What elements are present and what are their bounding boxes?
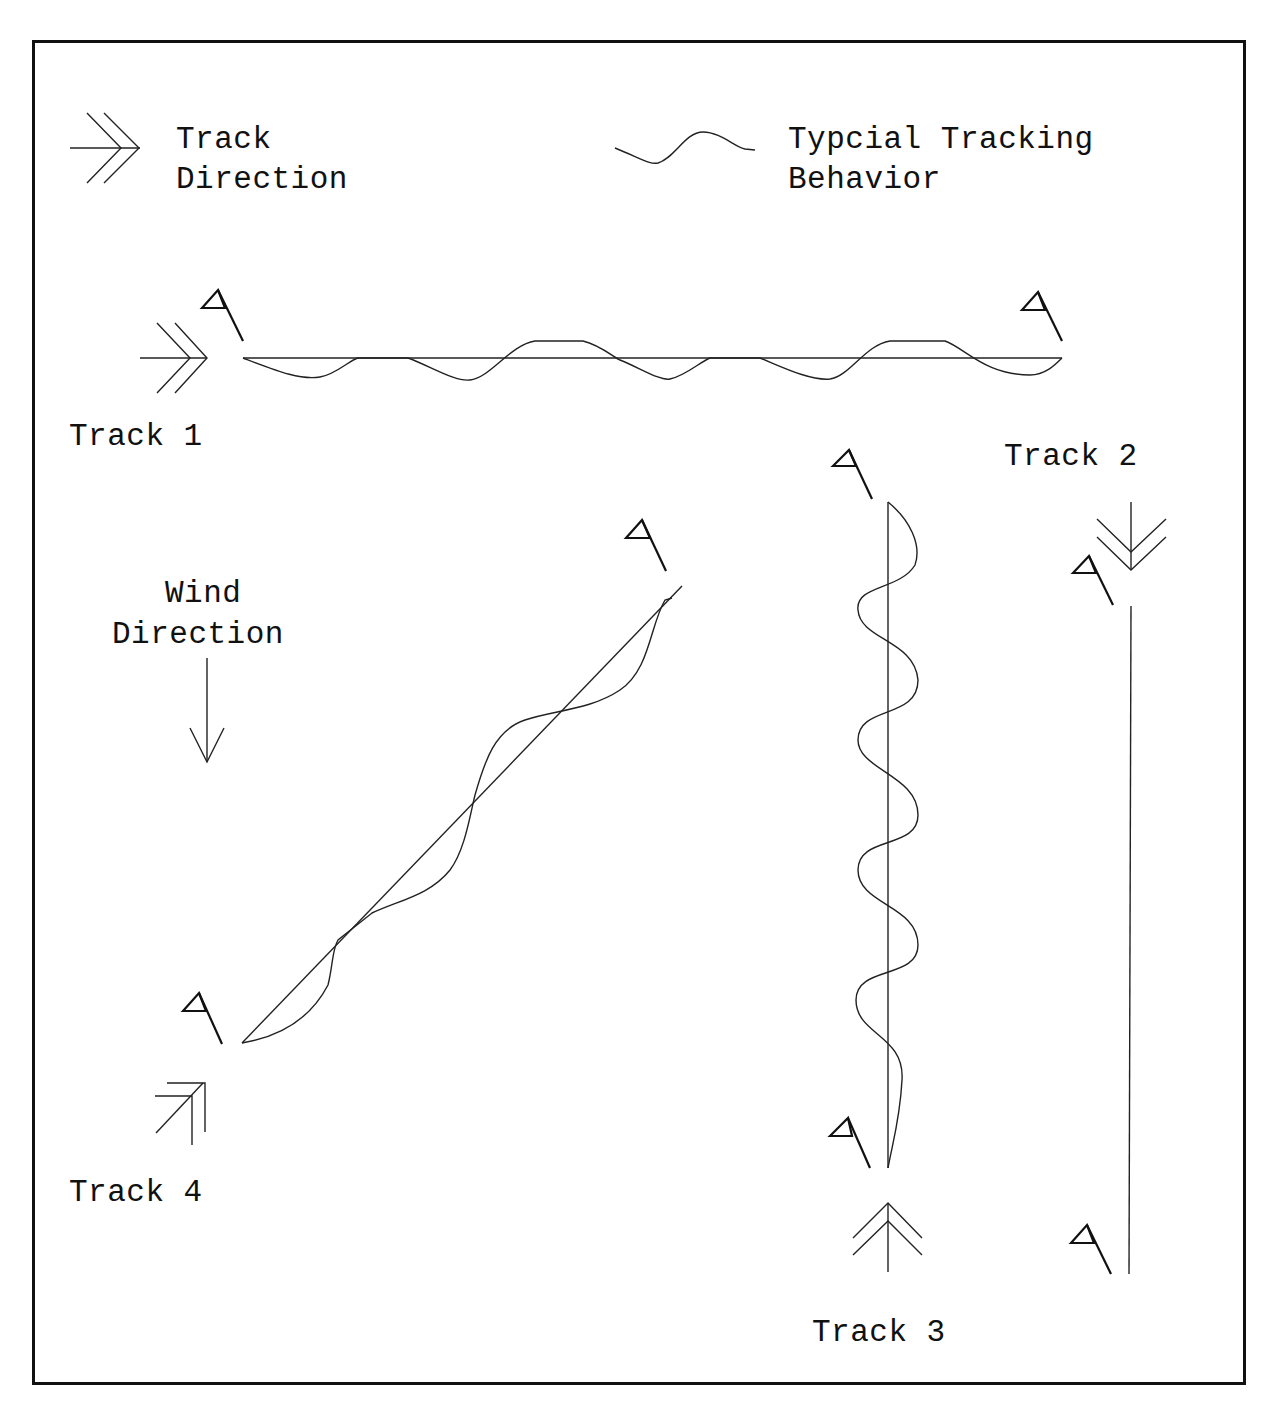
flag-icon <box>1073 556 1113 605</box>
flag-icon <box>833 450 872 499</box>
flag-icon <box>1071 1225 1111 1274</box>
wind-direction-label-1: Wind <box>165 574 241 614</box>
flag-icon <box>830 1118 870 1168</box>
track-4-label: Track 4 <box>69 1173 203 1213</box>
double-chevron-arrow-icon <box>140 323 207 393</box>
flag-icon <box>1022 292 1062 341</box>
double-chevron-arrow-icon <box>70 113 140 183</box>
legend-track-direction-label-1: Track <box>176 120 272 160</box>
track-3-label: Track 3 <box>812 1313 946 1353</box>
wind-direction-label-2: Direction <box>112 615 284 655</box>
track-3 <box>830 450 922 1272</box>
track-1 <box>140 290 1062 393</box>
down-arrow-icon <box>190 658 224 762</box>
flag-icon <box>183 993 222 1044</box>
legend-tracking-behavior-label-2: Behavior <box>788 160 941 200</box>
double-chevron-arrow-icon <box>155 1083 205 1145</box>
double-chevron-arrow-icon <box>853 1203 922 1272</box>
legend-track-direction-label-2: Direction <box>176 160 348 200</box>
flag-icon <box>202 290 243 341</box>
track-1-label: Track 1 <box>69 417 203 457</box>
legend-tracking-behavior-label-1: Typcial Tracking <box>788 120 1094 160</box>
track-2-label: Track 2 <box>1004 437 1138 477</box>
wavy-line-icon <box>615 132 755 163</box>
track-2 <box>1071 502 1166 1274</box>
flag-icon <box>626 520 666 571</box>
double-chevron-arrow-icon <box>1097 502 1166 570</box>
